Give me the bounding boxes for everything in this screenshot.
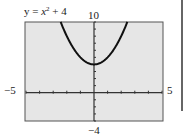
- page-edge-bar: [181, 0, 183, 111]
- graph-window: [0, 0, 185, 139]
